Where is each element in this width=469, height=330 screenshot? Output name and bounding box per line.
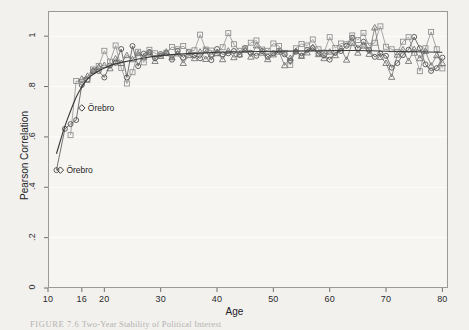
x-tick-label: 40 — [212, 294, 222, 304]
x-tick-label: 16 — [77, 294, 87, 304]
y-tick-label: .4 — [27, 176, 37, 196]
y-tick-label: .8 — [27, 76, 37, 96]
x-tick-label: 80 — [437, 294, 447, 304]
annotation-label-orebro-upper: Örebro — [88, 103, 114, 113]
trend-smooth-dark — [56, 50, 442, 153]
x-tick-label: 70 — [381, 294, 391, 304]
x-tick-label: 20 — [99, 294, 109, 304]
y-tick-label: .2 — [27, 227, 37, 247]
x-tick-label: 50 — [268, 294, 278, 304]
figure-caption: FIGURE 7.6 Two-Year Stability of Politic… — [30, 319, 221, 329]
y-tick-label: 0 — [27, 277, 37, 297]
annotation-label-orebro-lower: Örebro — [66, 165, 92, 175]
figure-caption-number: FIGURE 7.6 — [30, 319, 79, 329]
annotation-diamond-marker — [79, 105, 85, 111]
figure-caption-text: Two-Year Stability of Political Interest — [82, 319, 222, 329]
x-axis-title: Age — [0, 306, 469, 317]
y-axis-title: Pearson Correlation — [19, 86, 30, 226]
x-tick-label: 10 — [43, 294, 53, 304]
x-tick-label: 30 — [155, 294, 165, 304]
x-tick-label: 60 — [324, 294, 334, 304]
y-tick-label: .6 — [27, 126, 37, 146]
y-tick-label: 1 — [27, 25, 37, 45]
figure-root: Pearson Correlation Age 1016203040506070… — [0, 0, 469, 330]
